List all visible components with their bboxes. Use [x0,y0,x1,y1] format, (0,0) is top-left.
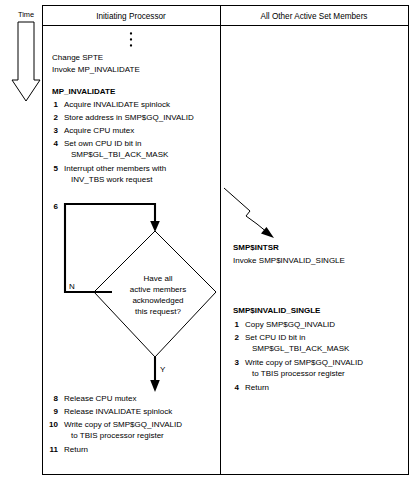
step-text: Return [64,445,88,454]
step-text-continuation: to TBIS processor register [252,369,345,378]
isr-title-smp-intsr: SMP$INTSR [233,243,279,252]
time-axis: Time [12,10,40,101]
step-text: Store address in SMP$GQ_INVALID [64,113,194,122]
step-text: Copy SMP$GQ_INVALID [245,320,335,329]
step-text: Write copy of SMP$GQ_INVALID [245,358,363,367]
preamble-line-2: Invoke MP_INVALIDATE [52,65,140,74]
initiating-processor-column: Change SPTE Invoke MP_INVALIDATE MP_INVA… [49,32,216,454]
yes-arrowhead-icon [150,380,160,392]
step-text: Return [245,383,269,392]
step-text-continuation: INV_TBS work request [71,175,153,184]
table-outer-border [43,6,409,475]
step-number: 11 [50,445,59,454]
step-text: Release CPU mutex [64,394,136,403]
decision-line-2: active members [130,285,186,294]
decision-yes-label: Y [160,365,166,374]
step-number: 4 [54,139,59,148]
decision-diamond: Have all active members acknowledged thi… [94,231,216,357]
preamble-line-1: Change SPTE [52,53,103,62]
step-text-continuation: SMP$GL_TBI_ACK_MASK [71,150,169,159]
step-number: 1 [235,320,240,329]
step-number: 2 [235,333,240,342]
mp-invalidate-flow-diagram: Time Initiating Processor All Other Acti… [0,0,413,490]
step-text: Release INVALIDATE spinlock [64,407,173,416]
step-number: 8 [54,394,59,403]
step-number: 10 [49,420,58,429]
step-text: Set own CPU ID bit in [64,139,141,148]
decision-yes-path: Y [150,357,166,392]
down-arrow-icon [12,22,40,101]
step-number: 5 [54,164,59,173]
routine-title-mp-invalidate: MP_INVALIDATE [52,87,116,96]
column-header-initiating-processor: Initiating Processor [96,12,166,21]
all-other-active-set-members-column: SMP$INTSR Invoke SMP$INVALID_SINGLE SMP$… [233,243,363,392]
decision-no-label: N [69,282,75,291]
step-number: 3 [54,126,59,135]
table-frame [43,6,409,475]
step-number: 3 [235,358,240,367]
step-text-continuation: SMP$GL_TBI_ACK_MASK [252,344,350,353]
step-text: Interrupt other members with [64,164,166,173]
step-text: Acquire INVALIDATE spinlock [64,100,171,109]
step-number: 2 [54,113,59,122]
step-text-continuation: to TBIS processor register [71,431,164,440]
step-number: 9 [54,407,59,416]
decision-line-4: this request? [135,307,181,316]
step-number-loop: 6 [54,202,59,211]
column-headers: Initiating Processor All Other Active Se… [96,12,367,21]
routine-title-smp-invalid-single: SMP$INVALID_SINGLE [233,306,321,315]
vertical-ellipsis-icon [130,32,132,46]
decision-line-3: acknowledged [132,296,183,305]
isr-body-invoke: Invoke SMP$INVALID_SINGLE [233,256,345,265]
column-header-all-other-active-set-members: All Other Active Set Members [261,12,368,21]
step-text: Write copy of SMP$GQ_INVALID [64,420,182,429]
step-number: 1 [54,100,59,109]
step-text: Acquire CPU mutex [64,126,134,135]
lightning-bolt-arrow-icon [224,188,274,238]
decision-line-1: Have all [144,274,173,283]
step-number: 4 [235,383,240,392]
step-text: Set CPU ID bit in [245,333,305,342]
time-axis-label: Time [18,10,34,19]
